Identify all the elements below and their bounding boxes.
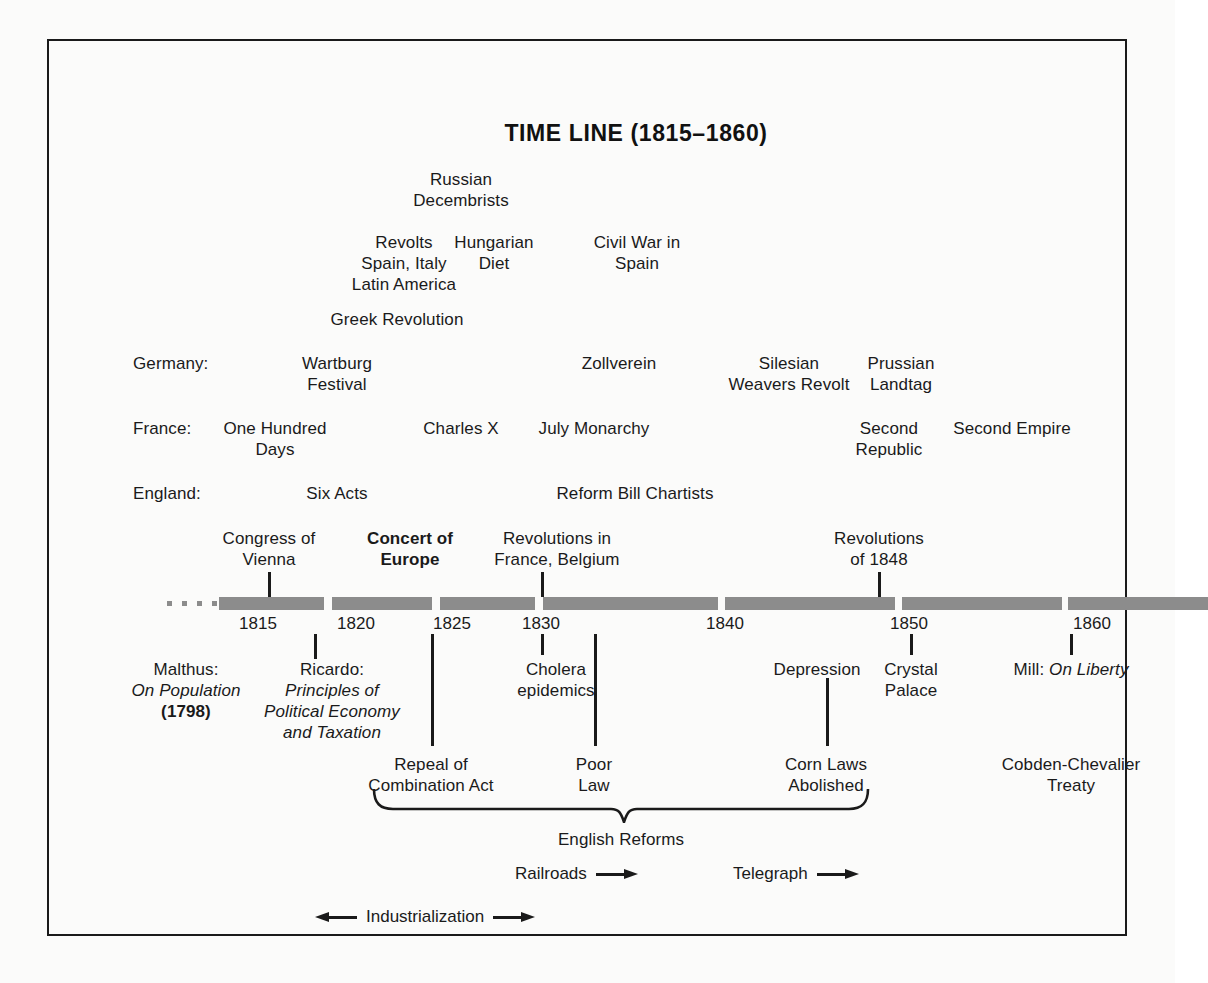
event-concert-of-europe: Concert ofEurope (367, 528, 453, 570)
year-label-1820: 1820 (337, 614, 375, 634)
event-ricardo-principles: Ricardo:Principles ofPolitical Economyan… (264, 659, 400, 743)
row-label-england: England: (133, 483, 201, 504)
event-silesian-weavers-revolt: SilesianWeavers Revolt (728, 353, 849, 395)
english-reforms-brace (371, 789, 871, 823)
timeline-bar-dot (167, 601, 172, 606)
event-one-hundred-days: One HundredDays (223, 418, 326, 460)
arrow-right-icon (596, 869, 638, 879)
timeline-bar-segment (902, 597, 1062, 610)
year-label-1840: 1840 (706, 614, 744, 634)
arrow-left-icon (315, 912, 357, 922)
brace-svg (371, 789, 871, 823)
timeline-bar-dot (212, 601, 217, 606)
event-wartburg-festival: WartburgFestival (302, 353, 372, 395)
event-cobden-chevalier-treaty: Cobden-ChevalierTreaty (1002, 754, 1141, 796)
tick-ricardo-principles (314, 634, 317, 659)
event-second-republic: SecondRepublic (856, 418, 923, 460)
event-revolutions-in-france-belgium: Revolutions inFrance, Belgium (494, 528, 619, 570)
event-depression: Depression (774, 659, 861, 680)
event-revolts-spain-italy-latin-america: RevoltsSpain, ItalyLatin America (352, 232, 456, 295)
page-title: TIME LINE (1815–1860) (504, 120, 767, 147)
year-label-1860: 1860 (1073, 614, 1111, 634)
year-label-1830: 1830 (522, 614, 560, 634)
event-russian-decembrists: RussianDecembrists (413, 169, 509, 211)
event-civil-war-in-spain: Civil War inSpain (594, 232, 681, 274)
event-crystal-palace: CrystalPalace (884, 659, 938, 701)
year-label-1825: 1825 (433, 614, 471, 634)
year-label-1815: 1815 (239, 614, 277, 634)
timeline-bar-dot (182, 601, 187, 606)
timeline-bar-segment (440, 597, 535, 610)
row-label-germany: Germany: (133, 353, 208, 374)
timeline-bar (167, 597, 1149, 610)
arrow-label-railroads: Railroads (515, 864, 587, 884)
tick-mill-on-liberty (1070, 634, 1073, 655)
arrow-row-industrialization: Industrialization (315, 907, 535, 927)
corn-laws-connector (826, 678, 829, 746)
event-cholera-epidemics: Choleraepidemics (517, 659, 594, 701)
event-malthus-on-population: Malthus:On Population(1798) (131, 659, 240, 722)
event-prussian-landtag: PrussianLandtag (868, 353, 935, 395)
timeline-frame: TIME LINE (1815–1860) RussianDecembrists… (47, 39, 1127, 936)
tick-cholera-epidemics (541, 634, 544, 655)
tick-crystal-palace (910, 634, 913, 655)
poor-law-connector (594, 634, 597, 746)
event-six-acts: Six Acts (306, 483, 367, 504)
event-hungarian-diet: HungarianDiet (454, 232, 533, 274)
english-reforms-label: English Reforms (558, 829, 684, 850)
repeal-connector (431, 634, 434, 746)
arrow-label-telegraph: Telegraph (733, 864, 808, 884)
event-july-monarchy: July Monarchy (539, 418, 650, 439)
arrow-right-icon (817, 869, 859, 879)
arrow-row-telegraph: Telegraph (733, 864, 859, 884)
tick-revolutions-in-france-belgium (541, 572, 544, 597)
year-label-1850: 1850 (890, 614, 928, 634)
timeline-bar-dot (197, 601, 202, 606)
arrow-right-icon (493, 912, 535, 922)
tick-congress-of-vienna (268, 572, 271, 597)
arrow-row-railroads: Railroads (515, 864, 638, 884)
timeline-bar-segment (332, 597, 432, 610)
event-charles-x: Charles X (423, 418, 499, 439)
tick-revolutions-of-1848 (878, 572, 881, 597)
timeline-bar-segment (543, 597, 718, 610)
event-congress-of-vienna: Congress ofVienna (223, 528, 316, 570)
event-second-empire: Second Empire (953, 418, 1071, 439)
event-revolutions-of-1848: Revolutionsof 1848 (834, 528, 924, 570)
arrow-label-industrialization: Industrialization (366, 907, 484, 927)
event-greek-revolution: Greek Revolution (331, 309, 464, 330)
timeline-bar-segment (1068, 597, 1208, 610)
timeline-bar-segment (219, 597, 324, 610)
event-reform-bill-chartists: Reform Bill Chartists (556, 483, 713, 504)
event-zollverein: Zollverein (582, 353, 657, 374)
event-mill-on-liberty: Mill: On Liberty (1014, 659, 1129, 680)
row-label-france: France: (133, 418, 191, 439)
timeline-bar-segment (725, 597, 895, 610)
